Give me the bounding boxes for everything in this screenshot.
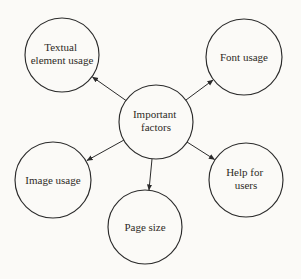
node-image-usage: Image usage: [15, 142, 91, 218]
node-font-usage: Font usage: [206, 19, 282, 95]
node-help-for-users: Help for users: [209, 143, 283, 217]
node-page-size: Page size: [108, 190, 182, 264]
edge-to-textual-element-usage: [93, 77, 127, 101]
concept-map-figure: Textual element usage Font usage Importa…: [0, 0, 301, 279]
edge-to-image-usage: [87, 140, 124, 161]
node-label: Image usage: [25, 174, 80, 186]
node-textual-element-usage: Textual element usage: [25, 18, 99, 92]
node-label: Page size: [124, 221, 165, 233]
edge-to-font-usage: [186, 80, 213, 100]
mind-map-svg: Textual element usage Font usage Importa…: [0, 0, 301, 279]
edge-to-page-size: [149, 159, 152, 190]
node-label: Font usage: [220, 51, 268, 63]
edge-to-help-for-users: [187, 142, 215, 160]
node-important-factors: Important factors: [119, 85, 193, 159]
